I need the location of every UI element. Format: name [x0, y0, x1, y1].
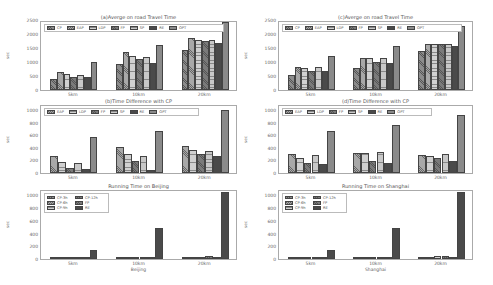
- bar-fp-20km: [202, 41, 209, 90]
- bar-cp-12h-20km: [442, 256, 450, 259]
- bar-fp-20km: [449, 257, 457, 259]
- bar-cp-9h-10km: [369, 257, 377, 259]
- bar-eap-20km: [418, 155, 426, 173]
- legend-swatch-icon: [47, 196, 55, 200]
- bar-ldp-10km: [124, 154, 132, 173]
- bar-cp-3h-20km: [182, 257, 190, 259]
- bar-cp-3h-10km: [116, 257, 124, 259]
- legend-label: FP: [121, 26, 125, 30]
- legend-swatch-icon: [407, 26, 415, 30]
- bar-cp-6h-10km: [361, 257, 369, 259]
- bar-fp-10km: [369, 161, 377, 173]
- legend-label: CP: [57, 26, 62, 30]
- y-tick-label: 0: [252, 88, 276, 93]
- legend-swatch-icon: [47, 201, 55, 205]
- legend-item-fp: FP: [329, 110, 343, 114]
- bar-eap-10km: [360, 58, 367, 90]
- chart-title: (c)Averge on road Travel Time: [278, 14, 473, 20]
- bar-sp-20km: [209, 40, 216, 90]
- x-axis-label: Beijing: [109, 267, 169, 272]
- legend-label: RE: [159, 26, 164, 30]
- legend-swatch-icon: [285, 196, 293, 200]
- bar-sp-5km: [74, 163, 82, 173]
- bar-cp-9h-5km: [304, 257, 312, 259]
- bar-sp-5km: [77, 75, 84, 90]
- y-tick-label: 1000: [252, 108, 276, 113]
- bar-fp-5km: [308, 71, 315, 90]
- bar-sp-20km: [205, 151, 213, 173]
- bar-ldp-5km: [64, 74, 71, 90]
- y-tick-label: 1000: [252, 60, 276, 65]
- y-tick-label: 800: [252, 121, 276, 126]
- legend-swatch-icon: [67, 26, 75, 30]
- legend: EAPLDPFPSPREOPT: [282, 108, 432, 116]
- legend-label: OPT: [159, 110, 166, 114]
- y-tick-label: 1500: [252, 46, 276, 51]
- legend-swatch-icon: [368, 110, 376, 114]
- legend-item-fp: FP: [111, 26, 125, 30]
- bar-cp-12h-10km: [140, 257, 148, 259]
- bar-cp-9h-20km: [434, 256, 442, 259]
- x-axis-label: Shanghai: [346, 267, 406, 272]
- bar-opt-10km: [392, 125, 400, 173]
- y-tick-label: 0: [14, 171, 38, 176]
- y-tick-label: 400: [252, 232, 276, 237]
- legend-label: OPT: [417, 26, 424, 30]
- legend-item-sp: SP: [348, 110, 362, 114]
- bar-fp-10km: [384, 257, 392, 259]
- bar-ldp-10km: [361, 153, 369, 173]
- bar-sp-10km: [140, 156, 148, 173]
- legend-swatch-icon: [47, 206, 55, 210]
- bar-ldp-20km: [426, 156, 434, 173]
- legend-swatch-icon: [75, 196, 83, 200]
- legend-item-opt: OPT: [387, 110, 404, 114]
- legend-swatch-icon: [368, 26, 376, 30]
- legend-swatch-icon: [313, 201, 321, 205]
- legend-label: CP-6h: [57, 201, 67, 205]
- legend-swatch-icon: [313, 196, 321, 200]
- legend-item-ldp: LDP: [327, 26, 344, 30]
- bar-fp-20km: [434, 158, 442, 173]
- bar-re-20km: [452, 46, 459, 90]
- bar-sp-10km: [377, 152, 385, 173]
- y-tick-label: 600: [252, 219, 276, 224]
- bar-re-5km: [84, 77, 91, 90]
- legend-label: CP-3h: [57, 196, 67, 200]
- y-tick-label: 0: [14, 257, 38, 262]
- legend-label: RE: [140, 110, 145, 114]
- bar-fp-5km: [319, 257, 327, 259]
- legend-swatch-icon: [305, 26, 313, 30]
- legend-swatch-icon: [89, 26, 97, 30]
- x-tick-label: 20km: [426, 175, 456, 180]
- bar-re-5km: [90, 250, 98, 259]
- bar-cp-5km: [288, 75, 295, 90]
- legend: EAPLDPFPSPREOPT: [44, 108, 199, 116]
- y-tick-label: 200: [14, 158, 38, 163]
- legend-swatch-icon: [329, 110, 337, 114]
- y-tick-label: 2500: [252, 18, 276, 23]
- y-tick-label: 0: [14, 88, 38, 93]
- bar-opt-5km: [91, 62, 98, 90]
- y-axis-label: sec: [5, 136, 10, 143]
- legend-swatch-icon: [285, 206, 293, 210]
- legend-item-opt: OPT: [149, 110, 166, 114]
- legend-swatch-icon: [149, 26, 157, 30]
- bar-fp-10km: [147, 257, 155, 259]
- x-tick-label: 20km: [189, 175, 219, 180]
- legend-swatch-icon: [130, 110, 138, 114]
- bar-fp-20km: [213, 257, 221, 259]
- y-axis-label: sec: [243, 52, 248, 59]
- legend-label: CP: [295, 26, 300, 30]
- legend-label: EAP: [57, 110, 64, 114]
- bar-eap-20km: [182, 146, 190, 173]
- bar-fp-5km: [70, 77, 77, 90]
- legend-label: CP-12h: [323, 196, 336, 200]
- bar-re-5km: [322, 71, 329, 90]
- legend-item-sp: SP: [110, 110, 124, 114]
- legend-item-re: RE: [387, 26, 402, 30]
- x-tick-label: 10km: [361, 261, 391, 266]
- chart-title: Running Time on Beijing: [40, 183, 237, 189]
- chart-title: (a)Averge on road Travel Time: [40, 14, 237, 20]
- y-tick-label: 600: [14, 219, 38, 224]
- legend-swatch-icon: [349, 26, 357, 30]
